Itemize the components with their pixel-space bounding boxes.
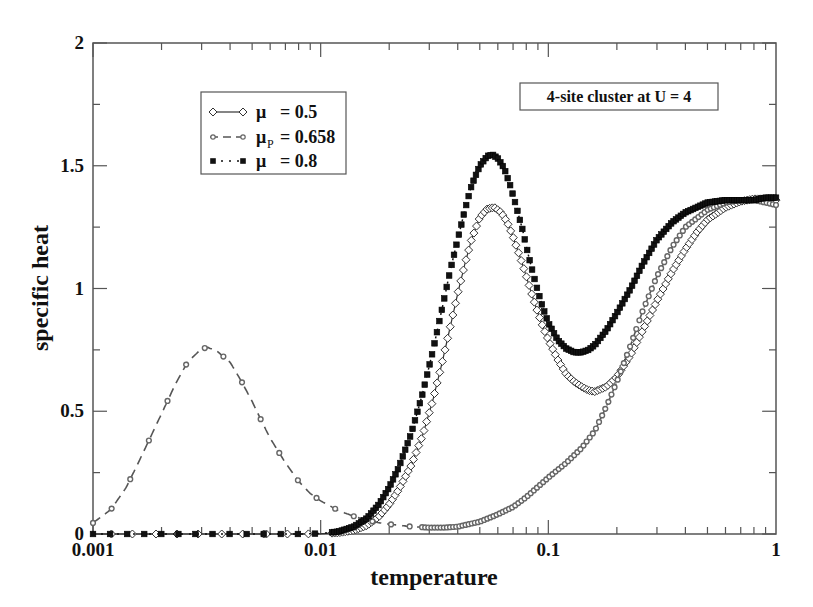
x-tick-label: 1	[771, 539, 781, 560]
x-axis-title: temperature	[370, 564, 498, 590]
annotation: 4-site cluster at U = 4	[520, 83, 718, 110]
legend-symbol: μ	[256, 151, 266, 171]
plot-area	[93, 43, 776, 534]
y-tick-label: 0.5	[60, 400, 84, 421]
x-tick-label: 0.01	[304, 539, 337, 560]
x-tick-label: 0.1	[536, 539, 560, 560]
legend-symbol: μ	[256, 127, 266, 147]
y-tick-label: 1	[75, 278, 85, 299]
legend: μ= 0.5μP= 0.658μ= 0.8	[201, 92, 346, 174]
y-tick-label: 2	[75, 32, 85, 53]
y-tick-label: 1.5	[60, 155, 84, 176]
legend-value: = 0.5	[280, 102, 317, 122]
legend-value: = 0.8	[280, 151, 317, 171]
specific-heat-chart: 0.0010.010.11 00.511.52 temperature spec…	[0, 0, 813, 607]
x-tick-labels: 0.0010.010.11	[72, 539, 781, 560]
legend-subscript: P	[267, 137, 274, 151]
y-axis-title: specific heat	[27, 225, 53, 351]
legend-symbol: μ	[256, 102, 266, 122]
y-tick-labels: 00.511.52	[60, 32, 84, 544]
legend-value: = 0.658	[280, 127, 335, 147]
y-tick-label: 0	[75, 523, 85, 544]
annotation-text: 4-site cluster at U = 4	[547, 88, 691, 105]
